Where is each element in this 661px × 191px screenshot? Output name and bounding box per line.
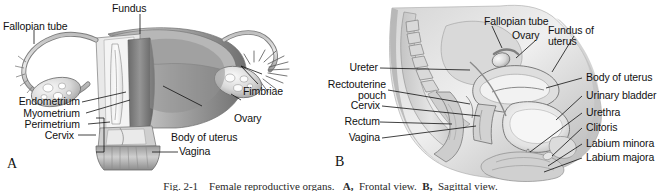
panel-letter-b: B <box>335 154 344 170</box>
label-ureter-b: Ureter <box>330 62 378 74</box>
label-labium-majora-b: Labium majora <box>586 152 654 164</box>
label-vagina-b: Vagina <box>330 132 380 144</box>
label-rectum-b: Rectum <box>330 116 380 128</box>
label-endometrium-a: Endometrium <box>2 96 80 108</box>
caption-title: Female reproductive organs. <box>209 180 334 191</box>
anatomy-figure: Fallopian tube Fundus Fimbriae Ovary End… <box>0 0 661 191</box>
label-fallopian-tube-a: Fallopian tube <box>3 21 68 33</box>
caption-number: Fig. 2-1 <box>163 180 198 191</box>
figure-caption: Fig. 2-1 Female reproductive organs. A, … <box>0 180 661 191</box>
label-body-of-uterus-b: Body of uterus <box>586 72 652 84</box>
label-fimbriae-a: Fimbriae <box>243 86 283 98</box>
caption-view-b: Sagittal view. <box>438 180 498 191</box>
label-urethra-b: Urethra <box>586 107 620 119</box>
caption-letter-a: A, <box>343 180 354 191</box>
label-ovary-b: Ovary <box>512 30 540 42</box>
label-fundus-of-uterus-b-line2: uterus <box>548 36 577 48</box>
label-labium-minora-b: Labium minora <box>586 138 654 150</box>
label-vagina-a: Vagina <box>179 146 210 158</box>
label-urinary-bladder-b: Urinary bladder <box>586 90 656 102</box>
caption-view-a: Frontal view. <box>359 180 417 191</box>
label-clitoris-b: Clitoris <box>586 122 617 134</box>
label-fallopian-tube-b: Fallopian tube <box>484 16 549 28</box>
label-cervix-b: Cervix <box>330 100 380 112</box>
panel-letter-a: A <box>7 156 17 172</box>
label-ovary-a: Ovary <box>234 113 262 125</box>
caption-letter-b: B, <box>422 180 432 191</box>
label-fundus-a: Fundus <box>112 3 146 15</box>
label-body-of-uterus-a: Body of uterus <box>171 132 237 144</box>
label-cervix-a: Cervix <box>2 130 74 142</box>
